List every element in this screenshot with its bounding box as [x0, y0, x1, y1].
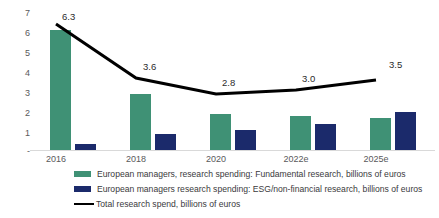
- plot-area: 7 6 5 4 3 2 1 -: [0, 0, 439, 168]
- bar-fundamental-2016: [50, 30, 71, 150]
- legend-item-esg: European managers research spending: ESG…: [74, 183, 422, 195]
- y-axis: 7 6 5 4 3 2 1 -: [0, 0, 30, 168]
- x-tick-2018: 2018: [106, 154, 166, 164]
- bars-layer: [30, 0, 435, 151]
- legend-label-total: Total research spend, billions of euros: [96, 199, 240, 209]
- y-tick-3: 3: [8, 89, 30, 98]
- data-label-2022e: 3.0: [302, 74, 315, 84]
- bar-esg-2020: [235, 130, 256, 150]
- x-tick-2016: 2016: [26, 154, 86, 164]
- data-label-2020: 2.8: [222, 78, 235, 88]
- legend-label-fundamental: European managers, research spending: Fu…: [97, 169, 406, 179]
- y-tick-1: 1: [8, 129, 30, 138]
- data-label-2025e: 3.5: [389, 60, 402, 70]
- y-tick-4: 4: [8, 69, 30, 78]
- bar-esg-2025e: [395, 112, 416, 150]
- legend-swatch-fundamental-icon: [74, 171, 91, 177]
- x-tick-2020: 2020: [186, 154, 246, 164]
- data-label-2018: 3.6: [143, 62, 156, 72]
- legend-swatch-esg-icon: [74, 186, 91, 192]
- legend-item-fundamental: European managers, research spending: Fu…: [74, 168, 406, 180]
- bar-esg-2018: [155, 134, 176, 150]
- chart-legend: European managers, research spending: Fu…: [0, 166, 439, 218]
- legend-label-esg: European managers research spending: ESG…: [97, 184, 422, 194]
- x-tick-2025e: 2025e: [346, 154, 406, 164]
- y-tick-6: 6: [8, 29, 30, 38]
- y-tick-7: 7: [8, 9, 30, 18]
- data-label-2016: 6.3: [62, 12, 75, 22]
- y-tick-5: 5: [8, 49, 30, 58]
- bar-fundamental-2018: [130, 94, 151, 150]
- bar-fundamental-2020: [210, 114, 231, 150]
- y-tick-2: 2: [8, 109, 30, 118]
- bar-esg-2022e: [315, 124, 336, 150]
- legend-swatch-line-icon: [74, 203, 94, 205]
- bar-fundamental-2022e: [290, 116, 311, 150]
- legend-item-total: Total research spend, billions of euros: [74, 198, 240, 210]
- combo-bar-line-chart: 7 6 5 4 3 2 1 -: [0, 0, 439, 218]
- bar-esg-2016: [75, 144, 96, 150]
- x-tick-2022e: 2022e: [266, 154, 326, 164]
- bar-fundamental-2025e: [370, 118, 391, 150]
